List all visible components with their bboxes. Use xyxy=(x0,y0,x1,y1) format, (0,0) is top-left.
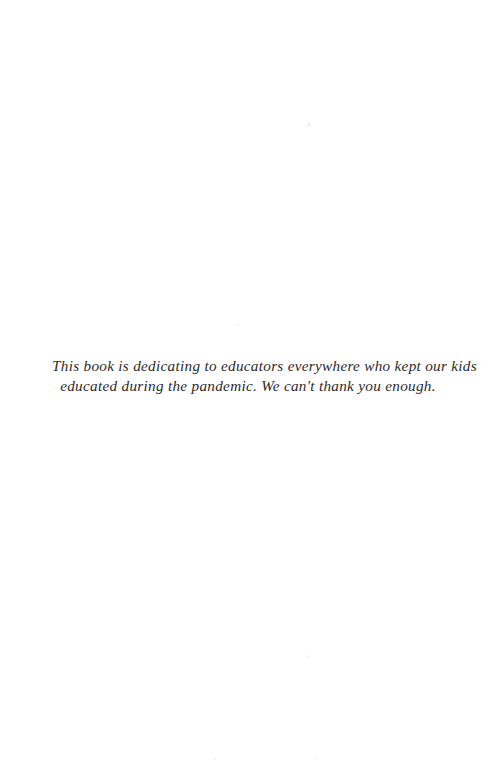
scan-artifact-speck xyxy=(236,324,240,327)
scan-artifact-speck xyxy=(306,655,309,659)
book-page: This book is dedicating to educators eve… xyxy=(0,0,497,769)
scan-artifact-speck xyxy=(213,757,217,760)
scan-artifact-speck xyxy=(315,757,317,760)
dedication-line-2: educated during the pandemic. We can't t… xyxy=(52,376,444,396)
dedication-line-1: This book is dedicating to educators eve… xyxy=(52,356,444,376)
scan-artifact-speck xyxy=(307,122,311,127)
dedication-text-block: This book is dedicating to educators eve… xyxy=(52,356,444,396)
